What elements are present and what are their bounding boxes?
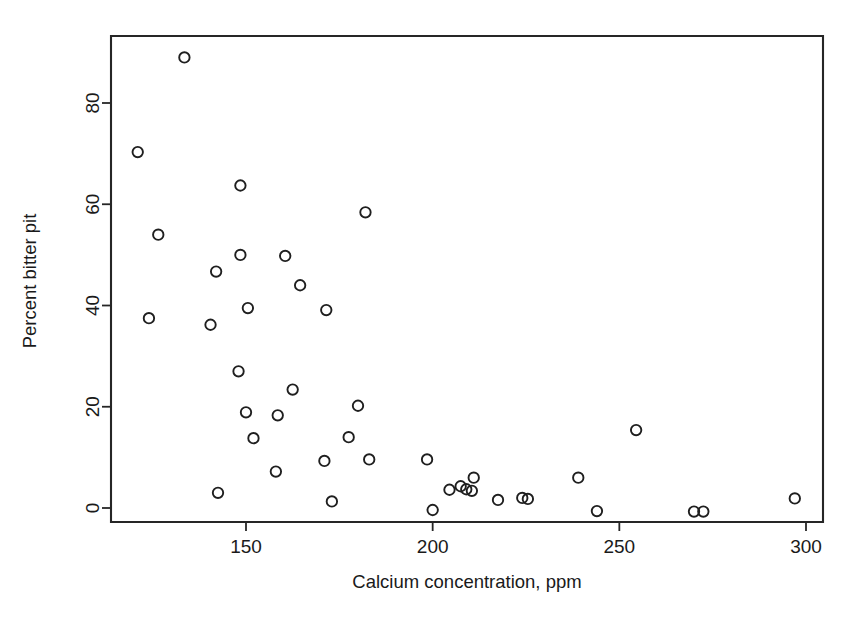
y-axis-title: Percent bitter pit [19, 214, 40, 349]
data-point-marker [241, 407, 251, 417]
y-tick-label: 20 [82, 396, 103, 417]
data-point-marker [153, 229, 163, 239]
data-point-marker [790, 493, 800, 503]
y-axis-ticks: 020406080 [82, 92, 112, 513]
data-point-marker [211, 266, 221, 276]
data-point-marker [243, 303, 253, 313]
data-point-marker [205, 320, 215, 330]
x-tick-label: 300 [790, 536, 822, 557]
data-point-marker [427, 505, 437, 515]
data-point-marker [360, 207, 370, 217]
data-point-marker [280, 251, 290, 261]
data-point-marker [319, 456, 329, 466]
data-point-marker [631, 425, 641, 435]
x-tick-label: 250 [603, 536, 635, 557]
data-point-marker [327, 496, 337, 506]
scatter-plot-figure: 150200250300 020406080 Calcium concentra… [0, 0, 865, 624]
data-point-marker [573, 472, 583, 482]
data-point-marker [133, 147, 143, 157]
data-point-marker [364, 454, 374, 464]
x-axis-ticks: 150200250300 [230, 522, 822, 557]
data-point-marker [321, 305, 331, 315]
x-axis-title: Calcium concentration, ppm [352, 571, 581, 592]
plot-frame [111, 36, 823, 522]
data-point-marker [422, 454, 432, 464]
data-point-marker [343, 432, 353, 442]
data-point-marker [213, 488, 223, 498]
y-tick-label: 60 [82, 194, 103, 215]
data-point-marker [353, 401, 363, 411]
data-point-marker [233, 366, 243, 376]
plot-canvas: 150200250300 020406080 Calcium concentra… [0, 0, 865, 624]
data-point-marker [235, 180, 245, 190]
data-point-marker [144, 313, 154, 323]
x-tick-label: 150 [230, 536, 262, 557]
data-point-marker [295, 280, 305, 290]
y-tick-label: 80 [82, 92, 103, 113]
x-tick-label: 200 [417, 536, 449, 557]
data-point-marker [493, 495, 503, 505]
data-point-marker [592, 506, 602, 516]
data-point-marker [179, 52, 189, 62]
data-points-layer [133, 52, 800, 517]
data-point-marker [469, 472, 479, 482]
data-point-marker [235, 250, 245, 260]
data-point-marker [287, 384, 297, 394]
data-point-marker [273, 410, 283, 420]
data-point-marker [444, 485, 454, 495]
y-tick-label: 0 [82, 503, 103, 514]
data-point-marker [271, 466, 281, 476]
data-point-marker [248, 433, 258, 443]
y-tick-label: 40 [82, 295, 103, 316]
